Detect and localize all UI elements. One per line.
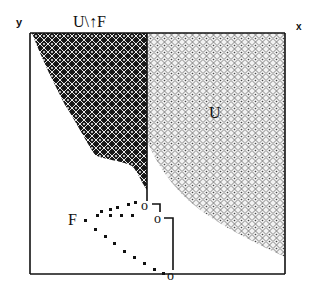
region-label-u-minus-up-f: U\↑F: [73, 13, 106, 30]
y-axis-label: y: [16, 16, 23, 28]
node-2: o: [154, 211, 161, 226]
diagram-canvas: o o o y x U\↑F U F: [0, 0, 313, 297]
dotted-paths-from-f: [84, 201, 165, 275]
region-label-u: U: [209, 104, 221, 121]
points-label-f: F: [68, 211, 77, 228]
node-1: o: [141, 198, 148, 213]
node-3: o: [167, 268, 174, 283]
x-axis-label: x: [296, 21, 302, 32]
connector-2: [164, 218, 173, 270]
region-u-minus-up-f: [32, 33, 147, 190]
region-u: [147, 33, 285, 257]
